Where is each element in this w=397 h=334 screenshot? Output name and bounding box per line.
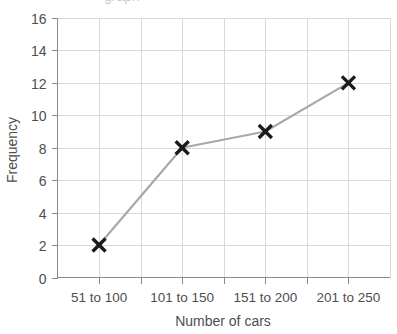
x-axis-category-labels: 51 to 100101 to 150151 to 200201 to 250 (71, 290, 380, 305)
y-tick-label-10: 10 (31, 108, 47, 124)
y-tick-label-0: 0 (39, 271, 47, 287)
x-category-label-2: 151 to 200 (233, 290, 297, 305)
y-tick-label-12: 12 (31, 76, 47, 92)
y-tick-label-6: 6 (39, 173, 47, 189)
x-axis-ticks (100, 278, 349, 284)
y-axis-title: Frequency (4, 117, 20, 183)
frequency-line (99, 83, 348, 245)
x-category-label-0: 51 to 100 (71, 290, 127, 305)
chart-canvas: 0246810121416 51 to 100101 to 150151 to … (0, 0, 397, 334)
x-axis-title: Number of cars (175, 313, 271, 329)
y-tick-label-8: 8 (39, 141, 47, 157)
x-category-label-3: 201 to 250 (317, 290, 381, 305)
y-tick-label-2: 2 (39, 238, 47, 254)
x-category-label-1: 101 to 150 (150, 290, 214, 305)
y-tick-label-14: 14 (31, 43, 47, 59)
y-axis-ticks (52, 19, 58, 279)
y-tick-label-16: 16 (31, 11, 47, 27)
frequency-polygon-chart: 0246810121416 51 to 100101 to 150151 to … (0, 0, 397, 334)
y-axis-tick-labels: 0246810121416 (31, 11, 47, 287)
y-tick-label-4: 4 (39, 206, 47, 222)
horizontal-gridlines (58, 19, 391, 246)
vertical-gridlines (58, 18, 391, 278)
